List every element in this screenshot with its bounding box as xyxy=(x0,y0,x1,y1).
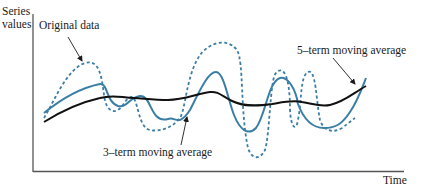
five-term-ma-arrow xyxy=(333,58,355,84)
original-data-arrow xyxy=(68,37,82,61)
chart-plot xyxy=(0,0,428,193)
three-term-ma-arrow xyxy=(181,117,187,145)
